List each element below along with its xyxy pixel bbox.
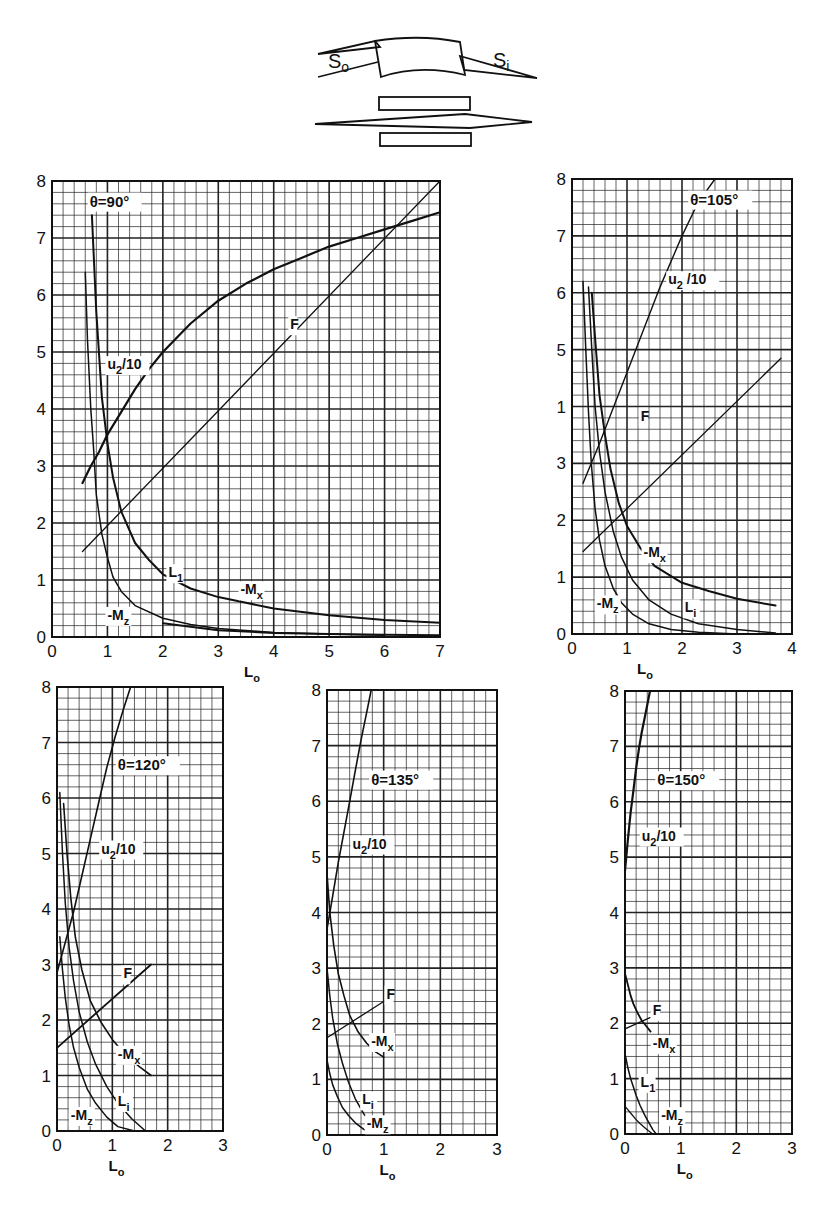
y-tick-label: 8 (610, 682, 619, 701)
y-tick-label: 1 (42, 1067, 51, 1086)
y-tick-label: 5 (557, 341, 566, 360)
x-tick-label: 0 (52, 1136, 61, 1155)
y-tick-label: 5 (42, 845, 51, 864)
y-tick-label: 1 (312, 1070, 321, 1089)
y-tick-label: 6 (37, 286, 46, 305)
chart-title: θ=120° (118, 756, 166, 773)
y-tick-label: 1 (557, 568, 566, 587)
y-tick-label: 0 (312, 1126, 321, 1145)
charts-layer: 01234567801234567Lou2/10F-MxL1-Mzθ=90°01… (0, 0, 835, 1218)
y-tick-label: 0 (557, 625, 566, 644)
x-tick-label: 2 (163, 1136, 172, 1155)
series-label: F (290, 316, 299, 332)
grid (327, 690, 497, 1135)
x-tick-label: 3 (218, 1136, 227, 1155)
y-tick-label: 2 (557, 511, 566, 530)
series-l1: L1 (85, 272, 384, 635)
grid (625, 691, 792, 1134)
y-tick-label: 8 (42, 678, 51, 697)
x-axis-label: Lo (244, 663, 260, 684)
y-tick-label: 2 (42, 1011, 51, 1030)
y-tick-label: 8 (312, 681, 321, 700)
y-tick-label: 3 (610, 959, 619, 978)
y-tick-label: 6 (312, 792, 321, 811)
x-axis-label: Lo (637, 660, 653, 681)
y-tick-label: 6 (557, 284, 566, 303)
x-tick-label: 3 (492, 1140, 501, 1159)
x-tick-label: 2 (436, 1140, 445, 1159)
x-tick-label: 1 (676, 1139, 685, 1158)
series-label: F (387, 986, 396, 1002)
chart-theta105: 01231567801234Lou2 /10F-MxLi-Mzθ=105° (557, 170, 797, 681)
y-tick-label: 0 (37, 628, 46, 647)
x-tick-label: 3 (214, 642, 223, 661)
x-tick-label: 2 (732, 1139, 741, 1158)
chart-title: θ=135° (371, 771, 419, 788)
y-tick-label: 2 (312, 1015, 321, 1034)
chart-theta90: 01234567801234567Lou2/10F-MxL1-Mzθ=90° (37, 172, 445, 684)
series-u210: u2/10 (83, 212, 441, 483)
chart-title: θ=90° (90, 193, 130, 210)
series-label: F (653, 1002, 662, 1018)
y-tick-label: 8 (557, 170, 566, 189)
x-tick-label: 0 (47, 642, 56, 661)
y-tick-label: 0 (610, 1125, 619, 1144)
x-axis-label: Lo (109, 1157, 125, 1178)
figure: So Si 01234567801234567Lou2/10F-MxL1-Mzθ… (0, 0, 835, 1218)
series-label: F (641, 408, 650, 424)
y-tick-label: 2 (610, 1014, 619, 1033)
chart-theta120: 0123456780123Lou2/10F-MxLi-Mzθ=120° (42, 678, 228, 1178)
x-tick-label: 0 (567, 639, 576, 658)
y-tick-label: 3 (42, 956, 51, 975)
x-tick-label: 3 (787, 1139, 796, 1158)
chart-theta135: 0123456780123Lou2/10F-MxLi-Mzθ=135° (312, 681, 502, 1182)
x-tick-label: 1 (622, 639, 631, 658)
y-tick-label: 1 (610, 1070, 619, 1089)
y-tick-label: 1 (37, 571, 46, 590)
y-tick-label: 4 (42, 900, 51, 919)
y-tick-label: 4 (37, 400, 46, 419)
series-f: F (625, 1002, 662, 1029)
x-tick-label: 1 (108, 1136, 117, 1155)
x-axis-label: Lo (677, 1160, 693, 1181)
y-tick-label: 5 (312, 848, 321, 867)
y-tick-label: 3 (37, 457, 46, 476)
chart-title: θ=150° (657, 771, 705, 788)
chart-theta150: 0123456780123Lou2/10F-MxL1-Mzθ=150° (610, 682, 797, 1181)
x-tick-label: 2 (158, 642, 167, 661)
y-tick-label: 5 (37, 343, 46, 362)
y-tick-label: 8 (37, 172, 46, 191)
chart-title: θ=105° (690, 191, 738, 208)
series-label: F (123, 965, 132, 981)
y-tick-label: 3 (312, 959, 321, 978)
x-tick-label: 5 (324, 642, 333, 661)
y-tick-label: 7 (37, 229, 46, 248)
x-tick-label: 1 (379, 1140, 388, 1159)
x-tick-label: 2 (677, 639, 686, 658)
y-tick-label: 5 (610, 848, 619, 867)
y-tick-label: 7 (42, 734, 51, 753)
y-tick-label: 7 (557, 227, 566, 246)
series-mx: -Mx (92, 215, 440, 623)
y-tick-label: 3 (557, 454, 566, 473)
y-tick-label: 4 (610, 904, 619, 923)
series-mz: -Mz (625, 1106, 685, 1134)
x-tick-label: 0 (620, 1139, 629, 1158)
y-tick-label: 1 (557, 398, 566, 417)
series-u210: u2/10 (57, 687, 143, 973)
y-tick-label: 6 (42, 789, 51, 808)
y-tick-label: 6 (610, 793, 619, 812)
x-tick-label: 3 (732, 639, 741, 658)
x-tick-label: 0 (322, 1140, 331, 1159)
x-tick-label: 7 (435, 642, 444, 661)
y-tick-label: 0 (42, 1122, 51, 1141)
x-tick-label: 1 (103, 642, 112, 661)
x-tick-label: 4 (269, 642, 278, 661)
y-tick-label: 2 (37, 514, 46, 533)
y-tick-label: 7 (312, 737, 321, 756)
x-tick-label: 6 (380, 642, 389, 661)
y-tick-label: 7 (610, 737, 619, 756)
y-tick-label: 4 (312, 904, 321, 923)
series-l1: L1 (625, 1054, 656, 1134)
x-axis-label: Lo (380, 1161, 396, 1182)
